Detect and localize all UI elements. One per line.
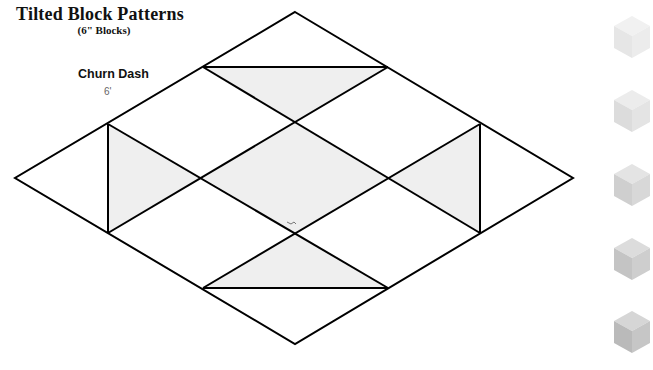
shade-swatch-cube-3: [612, 162, 652, 208]
shade-swatch-cube-2: [612, 88, 652, 134]
bottom-triangle: [203, 233, 388, 288]
left-triangle: [108, 124, 203, 233]
shade-swatch-cube-4: [612, 236, 652, 282]
shade-swatch-cube-1: [612, 14, 652, 60]
top-triangle: [203, 67, 388, 122]
churn-dash-block-diagram: [0, 0, 600, 370]
shaded-regions: [108, 67, 480, 288]
right-triangle: [388, 124, 480, 233]
shade-swatch-cube-5: [612, 309, 652, 355]
center-rhombus: [203, 122, 388, 233]
